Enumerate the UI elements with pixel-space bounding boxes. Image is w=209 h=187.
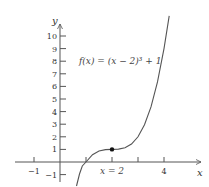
- function-curve: [77, 16, 170, 186]
- y-tick-labels: 10 9 8 7 6 5 4 3 2 1 −1: [45, 32, 57, 180]
- marked-point-label: x = 2: [100, 166, 124, 176]
- svg-text:6: 6: [52, 82, 57, 91]
- svg-text:3: 3: [52, 120, 57, 129]
- svg-text:10: 10: [47, 32, 57, 41]
- y-axis-label: y: [51, 15, 58, 26]
- x-ticks: [34, 157, 164, 162]
- svg-text:2: 2: [52, 133, 57, 142]
- svg-text:−1: −1: [28, 167, 40, 176]
- svg-text:5: 5: [52, 95, 57, 104]
- svg-text:8: 8: [52, 57, 57, 66]
- function-label: f(x) = (x − 2)³ + 1: [78, 56, 161, 66]
- chart: 10 9 8 7 6 5 4 3 2 1 −1 −1 4 x = 2 y x f…: [0, 0, 209, 187]
- svg-text:4: 4: [161, 167, 166, 176]
- svg-text:4: 4: [52, 108, 57, 117]
- x-axis-label: x: [197, 167, 203, 178]
- inflection-point-marker: [110, 147, 114, 151]
- svg-text:−1: −1: [45, 171, 57, 180]
- y-ticks: [60, 36, 66, 175]
- svg-text:1: 1: [52, 145, 57, 154]
- svg-text:7: 7: [52, 70, 57, 79]
- svg-text:9: 9: [52, 45, 57, 54]
